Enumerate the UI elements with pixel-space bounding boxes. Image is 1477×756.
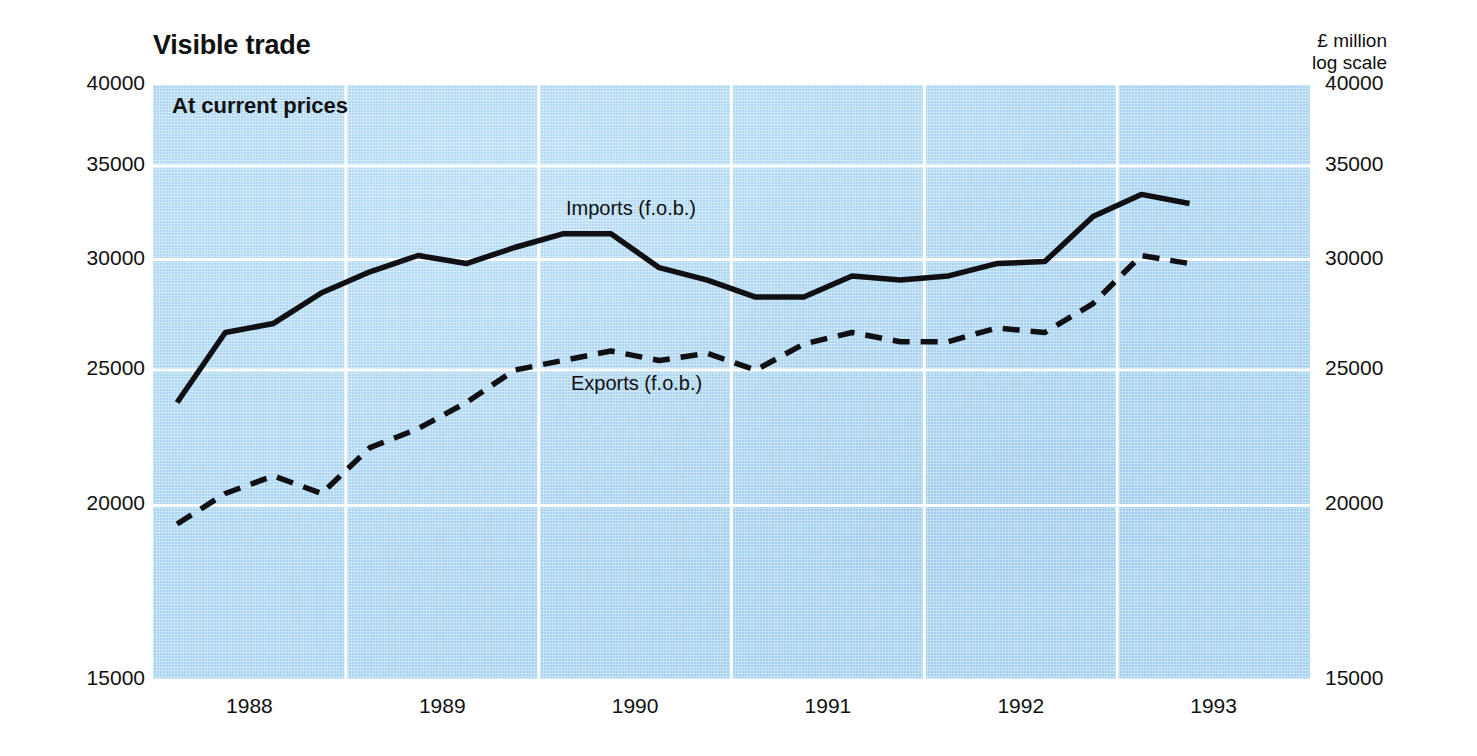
y-axis-tick-left: 35000 [87,152,145,176]
x-axis-tick: 1989 [419,694,466,718]
units-annotation: £ million log scale [1312,30,1387,74]
series-lines [153,85,1310,680]
y-axis-tick-left: 20000 [87,491,145,515]
y-axis-tick-right: 15000 [1325,666,1383,690]
chart-page: Visible trade £ million log scale At cur… [0,0,1477,756]
y-axis-tick-right: 25000 [1325,356,1383,380]
y-axis-tick-left: 30000 [87,246,145,270]
y-axis-tick-left: 40000 [87,71,145,95]
x-axis-tick: 1992 [997,694,1044,718]
page-title: Visible trade [153,30,310,61]
x-axis-tick: 1993 [1190,694,1237,718]
y-axis-tick-left: 15000 [87,666,145,690]
y-axis-tick-right: 30000 [1325,246,1383,270]
series-label-exports: Exports (f.o.b.) [571,372,702,395]
x-axis-tick: 1990 [612,694,659,718]
units-currency-label: £ million [1312,30,1387,52]
y-axis-tick-right: 20000 [1325,491,1383,515]
series-label-imports: Imports (f.o.b.) [566,197,696,220]
y-axis-tick-right: 40000 [1325,71,1383,95]
chart-subtitle: At current prices [172,93,348,119]
plot-area [153,85,1310,680]
x-axis-tick: 1988 [226,694,273,718]
y-axis-tick-left: 25000 [87,356,145,380]
x-axis-tick: 1991 [805,694,852,718]
y-axis-tick-right: 35000 [1325,152,1383,176]
